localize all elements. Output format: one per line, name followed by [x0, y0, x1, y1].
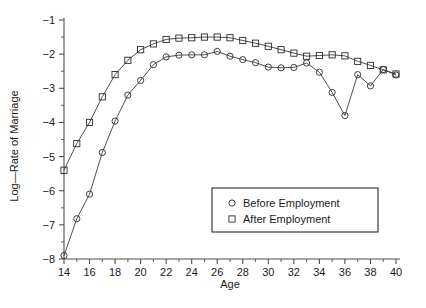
y-tick-label: −4 [42, 116, 55, 128]
legend-item-label: Before Employment [243, 197, 340, 209]
x-tick-label: 34 [313, 266, 325, 278]
y-axis-title: Log—Rate of Marriage [8, 90, 20, 201]
marriage-rate-line-chart: −1−2−3−4−5−6−7−8 14161820222426283032343… [0, 0, 426, 308]
y-tick-label: −5 [42, 151, 55, 163]
legend-item-2[interactable]: After Employment [229, 213, 331, 225]
x-tick-label: 14 [58, 266, 70, 278]
x-tick-label: 32 [288, 266, 300, 278]
x-tick-label: 16 [83, 266, 95, 278]
x-tick-label: 22 [160, 266, 172, 278]
y-tick-label: −1 [42, 14, 55, 26]
x-tick-label: 40 [390, 266, 402, 278]
legend-item-label: After Employment [243, 213, 330, 225]
x-tick-label: 36 [339, 266, 351, 278]
y-tick-label: −6 [42, 185, 55, 197]
x-axis-title: Age [220, 278, 240, 290]
legend-item-1[interactable]: Before Employment [229, 197, 340, 209]
chart-container: −1−2−3−4−5−6−7−8 14161820222426283032343… [0, 0, 426, 308]
y-tick-label: −8 [42, 253, 55, 265]
y-tick-label: −3 [42, 82, 55, 94]
y-tick-label: −2 [42, 48, 55, 60]
y-tick-label: −7 [42, 219, 55, 231]
x-tick-label: 28 [237, 266, 249, 278]
legend-box [212, 188, 378, 232]
x-tick-label: 26 [211, 266, 223, 278]
x-tick-label: 18 [109, 266, 121, 278]
chart-legend[interactable]: Before EmploymentAfter Employment [212, 188, 378, 232]
x-tick-label: 30 [262, 266, 274, 278]
x-tick-label: 20 [134, 266, 146, 278]
x-tick-label: 24 [186, 266, 198, 278]
x-tick-label: 38 [364, 266, 376, 278]
